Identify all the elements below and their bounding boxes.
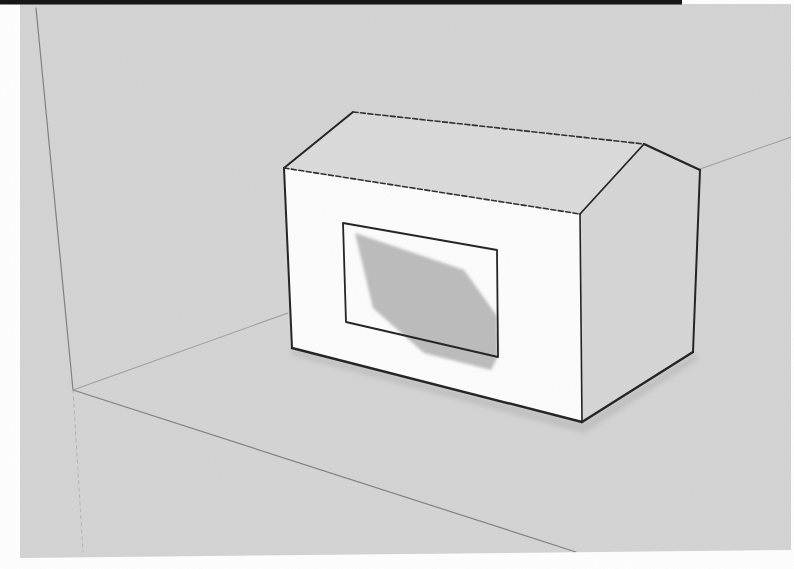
scan-grain-overlay <box>20 4 791 558</box>
modeling-viewport[interactable] <box>0 0 794 569</box>
scan-page <box>0 0 794 569</box>
scan-border-top <box>0 0 682 5</box>
